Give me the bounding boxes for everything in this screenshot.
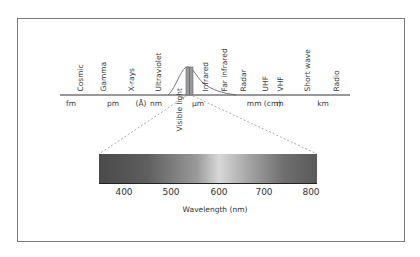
- region-label-cosmic: Cosmic: [77, 64, 85, 91]
- region-label-x-rays: X-rays: [128, 68, 136, 92]
- unit-label: pm: [107, 100, 119, 108]
- wavelength-tick: 700: [255, 188, 272, 197]
- region-label-radio: Radio: [333, 70, 341, 91]
- wavelength-tick: 600: [210, 188, 227, 197]
- x-axis-label: Wavelength (nm): [183, 206, 248, 214]
- unit-label: km: [317, 100, 329, 108]
- region-label-short-wave: Short wave: [304, 49, 312, 91]
- unit-label: µm: [192, 100, 204, 108]
- unit-label: (Å): [136, 100, 147, 108]
- region-label-gamma: Gamma: [100, 62, 108, 92]
- region-label-radar: Radar: [240, 69, 248, 91]
- spectrum-graphics: [0, 0, 420, 257]
- region-label-uhf: UHF: [262, 76, 270, 91]
- wavelength-tick: 800: [302, 188, 319, 197]
- region-label-ultraviolet: Ultraviolet: [155, 53, 163, 92]
- region-label-far-infrared: Far infrared: [221, 48, 229, 91]
- unit-label: m: [276, 100, 283, 108]
- unit-label: fm: [66, 100, 76, 108]
- region-label-vhf: VHF: [277, 76, 285, 91]
- unit-label: nm: [150, 100, 162, 108]
- visible-light-label: Visible light: [176, 88, 184, 132]
- wavelength-tick: 500: [162, 188, 179, 197]
- region-label-infrared: Infrared: [202, 62, 210, 92]
- visible-spectrum-bar: [99, 154, 317, 184]
- wavelength-tick: 400: [115, 188, 132, 197]
